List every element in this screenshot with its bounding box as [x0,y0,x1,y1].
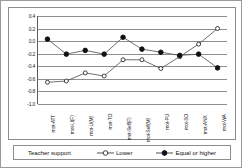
x-tick-label-text: mot-Self(F) [126,117,132,140]
y-tick-label: -0.2 [27,51,35,57]
x-tick-label: mot-ATT [47,97,53,115]
data-point [140,58,144,62]
data-point [64,52,69,57]
data-point [216,27,220,31]
x-tick-label: mot-Self(M) [142,94,148,118]
legend-entry-equal-or-higher: Equal or higher [156,149,216,157]
data-point [177,53,182,58]
x-tick-label: mot-SO [180,98,186,114]
data-point [45,80,49,84]
series-line-equal-or-higher [47,37,217,68]
x-tick-label-text: mot-ATT [50,115,56,133]
y-tick-label: -0.6 [27,76,35,82]
y-tick-label: -1.0 [27,101,35,107]
x-tick-label-text: mot-LI(F) [69,115,75,134]
x-axis-tick-labels: mot-ATTmot-LI(F)mot-LI(M)mot-TOmot-Self(… [37,106,227,146]
x-tick-label: mot-ANX [199,97,205,116]
data-point [121,58,125,62]
legend-label-equal-or-higher: Equal or higher [175,150,216,156]
chart-figure: 0.40.20.0-0.2-0.4-0.6-0.8-1.0 mot-ATTmot… [0,0,242,168]
x-tick-label-text: mot-SO [183,114,189,130]
x-tick-label-text: mot-PU [164,114,170,130]
data-point [140,47,145,52]
y-tick-label: 0.4 [29,13,35,19]
data-point [159,50,164,55]
data-point [83,48,88,53]
x-tick-label: mot-LI(F) [66,97,72,116]
legend-label-lower: Lower [116,150,132,156]
x-tick-label: mot-Self(F) [123,95,129,118]
data-point [196,52,201,57]
x-tick-label: mot-PU [161,98,167,114]
data-point [102,52,107,57]
y-tick-label: -0.8 [27,88,35,94]
chart-legend: Teacher support Lower Equal or higher [13,145,231,160]
y-tick-label: -0.4 [27,63,35,69]
x-tick-label-text: mot-LI(M) [88,116,94,136]
plot-wrapper: 0.40.20.0-0.2-0.4-0.6-0.8-1.0 [37,16,227,104]
data-series-layer [38,16,227,104]
x-tick-label: mot-LI(M) [85,96,91,116]
y-tick-label: 0.2 [29,26,35,32]
data-point [121,35,126,40]
x-tick-label: mot-WA [218,98,224,115]
filled-circle-marker-icon [156,149,173,157]
open-circle-marker-icon [97,149,114,157]
x-tick-label-text: mot-ANX [202,115,208,134]
plot-area [37,16,227,104]
x-tick-label-text: mot-TO [107,114,113,130]
data-point [159,67,163,71]
data-point [215,66,220,71]
data-point [83,71,87,75]
legend-entry-lower: Lower [97,149,132,157]
x-tick-label: mot-TO [104,98,110,114]
data-point [45,37,50,42]
y-tick-label: 0.0 [29,38,35,44]
x-tick-label-text: mot-Self(M) [145,118,151,142]
legend-title: Teacher support [28,150,71,156]
data-point [197,42,201,46]
data-point [64,79,68,83]
x-tick-label-text: mot-WA [221,114,227,131]
series-line-lower [47,29,217,83]
data-point [102,74,106,78]
chart-plot-frame: 0.40.20.0-0.2-0.4-0.6-0.8-1.0 mot-ATTmot… [8,7,236,140]
